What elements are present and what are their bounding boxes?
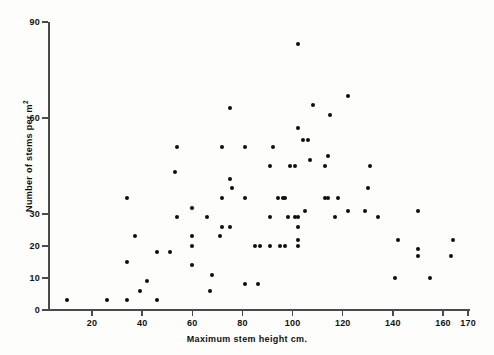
data-point (296, 126, 300, 130)
data-point (301, 138, 305, 142)
y-axis-title: Number of stems per m2 (22, 66, 34, 246)
data-point (296, 42, 300, 46)
data-point (210, 273, 214, 277)
data-point (125, 196, 129, 200)
data-point (283, 244, 287, 248)
data-point (296, 215, 300, 219)
data-point (451, 238, 455, 242)
data-point (366, 186, 370, 190)
data-point (376, 215, 380, 219)
data-point (288, 164, 292, 168)
data-point (228, 177, 232, 181)
data-point (296, 238, 300, 242)
data-points-layer (0, 0, 494, 355)
data-point (306, 138, 310, 142)
data-point (393, 276, 397, 280)
data-point (449, 254, 453, 258)
data-point (155, 298, 159, 302)
data-point (138, 289, 142, 293)
data-point (416, 247, 420, 251)
data-point (268, 164, 272, 168)
x-axis-title: Maximum stem height cm. (0, 334, 494, 344)
data-point (328, 113, 332, 117)
data-point (220, 225, 224, 229)
data-point (105, 298, 109, 302)
data-point (220, 196, 224, 200)
data-point (336, 196, 340, 200)
data-point (175, 215, 179, 219)
y-axis-title-superscript: 2 (22, 100, 29, 104)
data-point (125, 260, 129, 264)
data-point (396, 238, 400, 242)
data-point (303, 209, 307, 213)
data-point (175, 145, 179, 149)
data-point (258, 244, 262, 248)
data-point (228, 106, 232, 110)
data-point (311, 103, 315, 107)
data-point (416, 209, 420, 213)
data-point (65, 298, 69, 302)
data-point (133, 234, 137, 238)
data-point (145, 279, 149, 283)
data-point (346, 209, 350, 213)
data-point (220, 145, 224, 149)
data-point (346, 94, 350, 98)
data-point (326, 196, 330, 200)
data-point (268, 244, 272, 248)
data-point (243, 282, 247, 286)
data-point (230, 186, 234, 190)
data-point (173, 170, 177, 174)
data-point (278, 244, 282, 248)
data-point (268, 215, 272, 219)
data-point (308, 158, 312, 162)
plot-area: 01020306090 20406080100120140160170 Maxi… (0, 0, 494, 355)
data-point (190, 263, 194, 267)
data-point (205, 215, 209, 219)
data-point (155, 250, 159, 254)
data-point (190, 244, 194, 248)
data-point (243, 145, 247, 149)
data-point (363, 209, 367, 213)
data-point (286, 215, 290, 219)
data-point (296, 225, 300, 229)
data-point (228, 225, 232, 229)
y-axis-title-text: Number of stems per m (24, 104, 34, 212)
data-point (283, 196, 287, 200)
data-point (271, 145, 275, 149)
data-point (323, 164, 327, 168)
data-point (333, 215, 337, 219)
data-point (253, 244, 257, 248)
data-point (368, 164, 372, 168)
data-point (208, 289, 212, 293)
data-point (416, 254, 420, 258)
data-point (190, 234, 194, 238)
data-point (326, 154, 330, 158)
data-point (296, 244, 300, 248)
scatter-plot-screenshot: 01020306090 20406080100120140160170 Maxi… (0, 0, 494, 355)
data-point (428, 276, 432, 280)
data-point (168, 250, 172, 254)
data-point (256, 282, 260, 286)
data-point (125, 298, 129, 302)
data-point (218, 234, 222, 238)
data-point (276, 196, 280, 200)
data-point (243, 196, 247, 200)
data-point (293, 164, 297, 168)
data-point (190, 206, 194, 210)
